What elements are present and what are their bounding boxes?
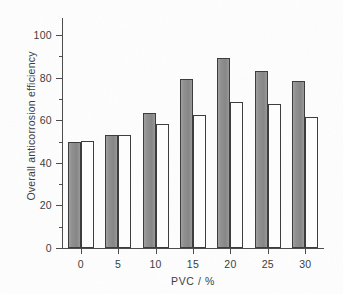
y-tick-label-80: 80 bbox=[6, 73, 52, 84]
y-tick-label-100: 100 bbox=[6, 30, 52, 41]
bar-series-white-5 bbox=[118, 135, 131, 248]
bar-series-gray-25 bbox=[255, 71, 268, 248]
bar-series-gray-5 bbox=[105, 135, 118, 248]
x-tick-20 bbox=[230, 249, 231, 254]
x-tick-label-15: 15 bbox=[175, 258, 211, 270]
bar-series-white-20 bbox=[230, 102, 243, 248]
bar-series-white-15 bbox=[193, 115, 206, 248]
y-tick-label-0: 0 bbox=[6, 243, 52, 254]
bar-series-gray-30 bbox=[292, 81, 305, 248]
x-tick-5 bbox=[118, 249, 119, 254]
x-tick-0 bbox=[81, 249, 82, 254]
x-tick-label-25: 25 bbox=[250, 258, 286, 270]
x-tick-label-30: 30 bbox=[287, 258, 323, 270]
x-tick-label-0: 0 bbox=[63, 258, 99, 270]
bar-chart-figure: Overall anticorrosion efficiency 0204060… bbox=[0, 0, 343, 294]
bar-series-white-0 bbox=[81, 141, 94, 248]
x-tick-25 bbox=[268, 249, 269, 254]
y-tick-major-0 bbox=[56, 248, 63, 249]
bar-series-white-30 bbox=[305, 117, 318, 248]
bar-series-gray-0 bbox=[68, 142, 81, 248]
x-axis-title: PVC / % bbox=[62, 275, 324, 287]
y-tick-label-20: 20 bbox=[6, 200, 52, 211]
x-tick-15 bbox=[193, 249, 194, 254]
bar-series-gray-15 bbox=[180, 79, 193, 248]
plot-area bbox=[62, 18, 324, 248]
bar-series-gray-10 bbox=[143, 113, 156, 248]
y-tick-label-60: 60 bbox=[6, 115, 52, 126]
x-tick-label-10: 10 bbox=[138, 258, 174, 270]
x-tick-label-20: 20 bbox=[212, 258, 248, 270]
bar-series-white-10 bbox=[156, 124, 169, 248]
x-tick-30 bbox=[305, 249, 306, 254]
x-tick-label-5: 5 bbox=[100, 258, 136, 270]
bar-series-white-25 bbox=[268, 104, 281, 248]
x-tick-10 bbox=[156, 249, 157, 254]
bar-series-gray-20 bbox=[217, 58, 230, 248]
y-tick-label-40: 40 bbox=[6, 158, 52, 169]
